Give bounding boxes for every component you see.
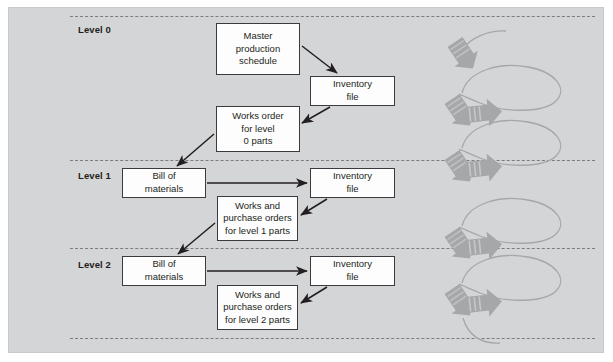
box-line: Works order bbox=[232, 110, 284, 121]
box-line: for level 1 parts bbox=[225, 225, 290, 236]
box-line: file bbox=[346, 271, 358, 282]
level-separator-1-2 bbox=[70, 248, 595, 249]
box-line: purchase orders bbox=[223, 301, 292, 312]
box-line: purchase orders bbox=[223, 212, 292, 223]
box-bill-of-materials-level-2: Bill of materials bbox=[122, 256, 206, 286]
box-inventory-file-level-0: Inventory file bbox=[310, 76, 395, 106]
box-line: materials bbox=[145, 183, 184, 194]
level-label-2: Level 2 bbox=[78, 259, 111, 270]
box-line: Inventory bbox=[333, 170, 372, 181]
box-line: Works and bbox=[235, 289, 280, 300]
level-label-0: Level 0 bbox=[78, 24, 111, 35]
box-line: for level 2 parts bbox=[225, 314, 290, 325]
box-line: Works and bbox=[235, 200, 280, 211]
box-inventory-file-level-1: Inventory file bbox=[310, 168, 395, 198]
box-line: for level bbox=[241, 123, 274, 134]
level-separator-bottom bbox=[70, 338, 595, 339]
box-line: Inventory bbox=[333, 258, 372, 269]
box-line: file bbox=[346, 183, 358, 194]
box-line: 0 parts bbox=[243, 135, 272, 146]
box-line: Inventory bbox=[333, 78, 372, 89]
box-line: Bill of bbox=[152, 258, 175, 269]
box-line: Master bbox=[243, 30, 272, 41]
box-line: file bbox=[346, 91, 358, 102]
box-bill-of-materials-level-1: Bill of materials bbox=[122, 168, 206, 198]
box-master-production-schedule: Master production schedule bbox=[216, 23, 300, 75]
box-works-order-level-0: Works order for level 0 parts bbox=[216, 106, 300, 152]
figure-canvas: Level 0 Level 1 Level 2 Master productio… bbox=[0, 0, 613, 362]
box-line: materials bbox=[145, 271, 184, 282]
box-line: schedule bbox=[239, 55, 277, 66]
level-separator-0-1 bbox=[70, 160, 595, 161]
level-separator-top bbox=[70, 16, 595, 17]
box-line: Bill of bbox=[152, 170, 175, 181]
box-works-purchase-orders-level-2: Works and purchase orders for level 2 pa… bbox=[217, 285, 298, 330]
box-works-purchase-orders-level-1: Works and purchase orders for level 1 pa… bbox=[217, 196, 298, 241]
box-inventory-file-level-2: Inventory file bbox=[310, 256, 395, 286]
box-line: production bbox=[236, 43, 280, 54]
level-label-1: Level 1 bbox=[78, 170, 111, 181]
